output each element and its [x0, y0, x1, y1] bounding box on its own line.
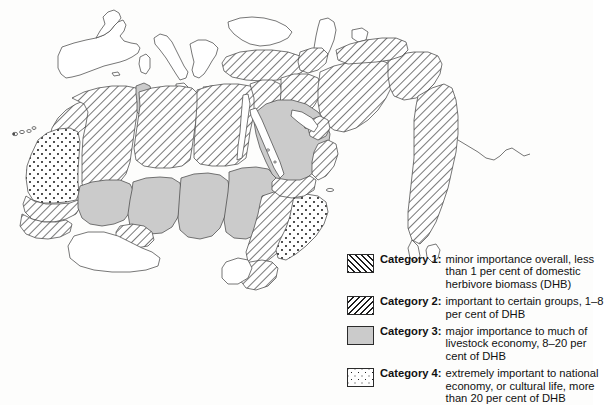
legend-line: economy, or cultural life, more — [446, 380, 599, 392]
legend-line: than 20 per cent of DHB — [446, 392, 599, 404]
legend-swatch-category-1 — [347, 254, 374, 273]
legend-line: livestock economy, 8–20 per — [446, 337, 588, 349]
legend-line: per cent of DHB — [446, 308, 604, 320]
region-pakistan-india — [408, 84, 458, 244]
region-western-sahara — [26, 128, 80, 203]
legend-desc-category-1: minor importance overall, less than 1 pe… — [446, 253, 595, 290]
socotra-island — [327, 188, 334, 191]
legend-line: major importance to much of — [446, 325, 588, 337]
region-black-sea-north — [228, 17, 292, 46]
region-india-coast-line — [458, 140, 530, 160]
legend-item-category-3[interactable]: Category 3: major importance to much of … — [347, 325, 591, 362]
legend-desc-category-2: important to certain groups, 1–8 per cen… — [446, 295, 604, 320]
legend-label-category-1: Category 1: — [380, 253, 442, 290]
region-iberia — [58, 20, 140, 78]
legend-swatch-category-2 — [347, 296, 374, 315]
region-libya — [134, 86, 198, 168]
legend-desc-category-4: extremely important to national economy,… — [446, 367, 599, 404]
legend-line: than 1 per cent of domestic — [446, 265, 595, 277]
legend-desc-category-3: major importance to much of livestock ec… — [446, 325, 588, 362]
legend-label-category-2: Category 2: — [380, 295, 442, 320]
legend-item-category-2[interactable]: Category 2: important to certain groups,… — [347, 295, 591, 320]
legend-label-category-3: Category 3: — [380, 325, 442, 362]
legend-line: important to certain groups, 1–8 — [446, 295, 604, 307]
region-caucasus — [298, 48, 328, 73]
legend: Category 1: minor importance overall, le… — [347, 253, 591, 405]
region-chad — [178, 173, 230, 239]
legend-text-category-4: Category 4: extremely important to natio… — [380, 367, 599, 404]
region-mali — [78, 180, 134, 226]
region-balearics — [112, 72, 120, 76]
legend-line: cent of DHB — [446, 350, 588, 362]
region-algeria — [72, 86, 140, 193]
region-iran — [318, 60, 394, 132]
legend-line: minor importance overall, less — [446, 253, 595, 265]
legend-item-category-1[interactable]: Category 1: minor importance overall, le… — [347, 253, 591, 290]
legend-line: extremely important to national — [446, 367, 599, 379]
legend-text-category-2: Category 2: important to certain groups,… — [380, 295, 604, 320]
legend-text-category-3: Category 3: major importance to much of … — [380, 325, 587, 362]
legend-line: herbivore biomass (DHB) — [446, 278, 595, 290]
legend-item-category-4[interactable]: Category 4: extremely important to natio… — [347, 367, 591, 404]
region-balkans-greece — [190, 40, 218, 78]
region-sardinia-corsica — [139, 54, 150, 74]
canary-islands — [12, 127, 36, 136]
legend-swatch-category-3 — [347, 326, 374, 345]
region-italy — [154, 34, 188, 80]
legend-text-category-1: Category 1: minor importance overall, le… — [380, 253, 594, 290]
legend-label-category-4: Category 4: — [380, 367, 442, 404]
legend-swatch-category-4 — [347, 368, 374, 387]
